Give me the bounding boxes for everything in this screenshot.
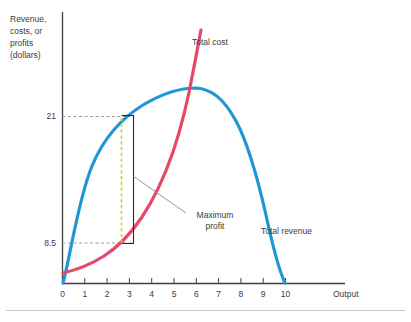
y-axis-title-line2: costs, or [10,26,42,36]
y-tick-label-8-5: 8.5 [44,238,56,248]
value-guides [63,117,135,244]
y-axis-title-line3: profits [10,38,33,48]
x-tick-label: 4 [149,289,154,299]
y-axis-value-labels: 21 8.5 [44,111,56,248]
x-tick-label: 7 [216,289,221,299]
x-tick-label: 5 [172,289,177,299]
x-tick-label: 3 [127,289,132,299]
x-tick-label: 0 [60,289,65,299]
x-tick-label: 1 [82,289,87,299]
x-tick-label: 8 [239,289,244,299]
total-cost-label: Total cost [192,37,229,47]
maximum-profit-label-line2: profit [206,221,226,231]
axes [63,12,346,284]
y-axis-title-line1: Revenue, [10,14,46,24]
x-axis-tick-labels: 0 1 2 3 4 5 6 7 8 9 10 [60,289,290,299]
y-axis-title: Revenue, costs, or profits (dollars) [10,14,46,60]
x-tick-label: 6 [194,289,199,299]
total-revenue-total-cost-chart: 0 1 2 3 4 5 6 7 8 9 10 21 8.5 [0,0,411,322]
x-tick-label: 2 [105,289,110,299]
total-revenue-curve [63,88,285,283]
y-axis-title-line4: (dollars) [10,50,41,60]
y-tick-label-21: 21 [47,111,57,121]
total-cost-curve [63,30,201,273]
x-axis-title: Output [333,289,359,299]
maximum-profit-bracket [122,115,134,244]
x-tick-label: 9 [261,289,266,299]
x-tick-label: 10 [281,289,291,299]
maximum-profit-leader-line [133,176,186,213]
total-revenue-label: Total revenue [261,226,312,236]
chart-figure: 0 1 2 3 4 5 6 7 8 9 10 21 8.5 [0,0,411,322]
maximum-profit-label-line1: Maximum [197,210,234,220]
